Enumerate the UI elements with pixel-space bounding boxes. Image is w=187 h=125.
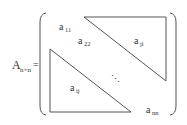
svg-text:ij: ij [76,87,80,94]
matrix-diagram: A n×n = a 11 a 22 a ji a ij [0,0,187,125]
svg-text:a: a [59,21,64,32]
diagonal-dots: ⋱ [111,74,120,84]
entry-a11: a 11 [59,21,71,33]
matrix-label: A n×n = [12,58,39,74]
svg-text:a: a [146,104,151,115]
upper-triangle [84,17,166,81]
svg-text:a: a [70,82,75,93]
svg-text:a: a [78,35,83,46]
left-paren [40,13,46,115]
entry-aij: a ij [70,82,80,94]
svg-text:nn: nn [152,109,159,116]
svg-text:a: a [134,35,139,46]
matrix-subscript: n×n [20,66,31,74]
entry-ann: a nn [146,104,159,116]
svg-text:ji: ji [139,40,144,47]
svg-text:11: 11 [65,26,71,33]
equals-sign: = [33,59,39,70]
svg-text:22: 22 [84,40,91,47]
entry-a22: a 22 [78,35,91,47]
right-paren [170,13,176,115]
entry-aji: a ji [134,35,144,47]
